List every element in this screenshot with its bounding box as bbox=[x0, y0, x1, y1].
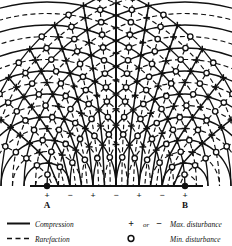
node-min-disturbance bbox=[99, 32, 104, 37]
baseline-sign-5: − bbox=[159, 190, 164, 200]
node-min-disturbance bbox=[105, 114, 110, 119]
baseline-sign-4: + bbox=[136, 190, 141, 200]
legend-max-disturbance-label: Max. disturbance bbox=[169, 220, 222, 229]
node-min-disturbance bbox=[121, 114, 126, 119]
node-min-disturbance bbox=[127, 32, 132, 37]
node-min-disturbance bbox=[23, 118, 28, 123]
node-min-disturbance bbox=[149, 61, 154, 66]
node-min-disturbance bbox=[188, 34, 193, 39]
node-min-disturbance bbox=[77, 136, 82, 141]
node-min-disturbance bbox=[141, 101, 146, 106]
node-min-disturbance bbox=[72, 36, 77, 41]
node-min-disturbance bbox=[49, 149, 54, 154]
node-min-disturbance bbox=[187, 138, 192, 143]
node-min-disturbance bbox=[102, 71, 107, 76]
node-min-disturbance bbox=[58, 81, 63, 86]
node-min-disturbance bbox=[34, 163, 39, 168]
baseline-sign-0: + bbox=[44, 190, 49, 200]
node-min-disturbance bbox=[203, 156, 208, 161]
node-min-disturbance bbox=[83, 87, 88, 92]
node-min-disturbance bbox=[170, 127, 175, 132]
node-min-disturbance bbox=[92, 133, 97, 138]
node-min-disturbance bbox=[168, 81, 173, 86]
node-min-disturbance bbox=[197, 81, 202, 86]
interference-diagram-svg: +A−+−+−+B Compression Rarefaction + or −… bbox=[0, 0, 232, 246]
legend-plus-icon: + bbox=[128, 218, 134, 229]
node-min-disturbance bbox=[152, 49, 157, 54]
node-min-disturbance bbox=[143, 87, 148, 92]
node-min-disturbance bbox=[135, 133, 140, 138]
node-min-disturbance bbox=[190, 92, 195, 97]
node-min-disturbance bbox=[177, 115, 182, 120]
node-min-disturbance bbox=[221, 100, 226, 105]
node-min-disturbance bbox=[144, 157, 149, 162]
node-min-disturbance bbox=[124, 71, 129, 76]
node-min-disturbance bbox=[230, 91, 232, 96]
legend-compression-label: Compression bbox=[35, 220, 74, 229]
node-min-disturbance bbox=[157, 160, 162, 165]
node-min-disturbance bbox=[120, 155, 125, 160]
node-min-disturbance bbox=[82, 157, 87, 162]
node-min-disturbance bbox=[23, 70, 28, 75]
node-min-disturbance bbox=[89, 116, 94, 121]
node-min-disturbance bbox=[204, 70, 209, 75]
source-label-b: B bbox=[182, 200, 188, 210]
node-min-disturbance bbox=[126, 45, 131, 50]
legend-minus-icon: − bbox=[156, 218, 162, 229]
node-min-disturbance bbox=[73, 120, 78, 125]
node-min-disturbance bbox=[63, 93, 68, 98]
node-min-disturbance bbox=[74, 49, 79, 54]
node-min-disturbance bbox=[80, 74, 85, 79]
node-min-disturbance bbox=[129, 7, 134, 12]
node-min-disturbance bbox=[31, 127, 36, 132]
legend-rarefaction-label: Rarefaction bbox=[34, 235, 70, 244]
node-min-disturbance bbox=[192, 163, 197, 168]
node-min-disturbance bbox=[159, 106, 164, 111]
legend-min-disturbance-label: Min. disturbance bbox=[169, 235, 221, 244]
node-min-disturbance bbox=[178, 57, 183, 62]
source-point-a bbox=[44, 183, 50, 189]
baseline-sign-3: − bbox=[113, 190, 118, 200]
node-min-disturbance bbox=[154, 120, 159, 125]
node-min-disturbance bbox=[40, 138, 45, 143]
node-min-disturbance bbox=[68, 106, 73, 111]
node-min-disturbance bbox=[161, 12, 166, 17]
node-min-disturbance bbox=[155, 36, 160, 41]
node-min-disturbance bbox=[86, 101, 91, 106]
node-min-disturbance bbox=[97, 7, 102, 12]
node-min-disturbance bbox=[123, 85, 128, 90]
node-min-disturbance bbox=[169, 164, 174, 169]
node-min-disturbance bbox=[69, 24, 74, 29]
node-min-disturbance bbox=[178, 149, 183, 154]
node-min-disturbance bbox=[182, 172, 187, 177]
node-min-disturbance bbox=[120, 132, 125, 137]
node-min-disturbance bbox=[132, 155, 137, 160]
node-min-disturbance bbox=[195, 127, 200, 132]
node-min-disturbance bbox=[66, 12, 71, 17]
node-min-disturbance bbox=[36, 92, 41, 97]
node-min-disturbance bbox=[44, 45, 49, 50]
node-min-disturbance bbox=[183, 45, 188, 50]
node-min-disturbance bbox=[213, 149, 218, 154]
node-min-disturbance bbox=[184, 103, 189, 108]
node-min-disturbance bbox=[56, 127, 61, 132]
node-min-disturbance bbox=[164, 141, 169, 146]
node-min-disturbance bbox=[95, 155, 100, 160]
node-min-disturbance bbox=[49, 57, 54, 62]
node-min-disturbance bbox=[13, 149, 18, 154]
node-min-disturbance bbox=[146, 74, 151, 79]
node-min-disturbance bbox=[5, 100, 10, 105]
legend-or-text: or bbox=[143, 221, 150, 229]
node-min-disturbance bbox=[173, 69, 178, 74]
baseline-sign-2: + bbox=[90, 190, 95, 200]
node-min-disturbance bbox=[138, 116, 143, 121]
node-min-disturbance bbox=[63, 141, 68, 146]
node-min-disturbance bbox=[0, 91, 2, 96]
source-label-a: A bbox=[44, 200, 51, 210]
node-min-disturbance bbox=[106, 132, 111, 137]
node-min-disturbance bbox=[70, 160, 75, 165]
node-min-disturbance bbox=[128, 20, 133, 25]
node-min-disturbance bbox=[204, 118, 209, 123]
node-min-disturbance bbox=[211, 60, 216, 65]
source-point-b bbox=[182, 183, 188, 189]
